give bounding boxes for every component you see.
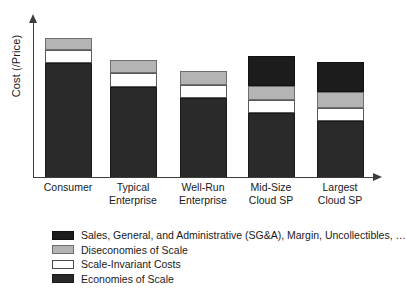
bar-segment-economies: [110, 87, 157, 177]
legend-item-economies[interactable]: Economies of Scale: [52, 272, 399, 287]
bar-segment-scale-invariant: [110, 73, 157, 87]
legend-swatch-economies-icon: [52, 274, 74, 283]
legend-label-scale-invariant: Scale-Invariant Costs: [81, 258, 181, 270]
bar-segment-economies: [180, 98, 227, 177]
bar-segment-economies: [45, 63, 92, 177]
bars-layer: [0, 0, 399, 177]
chart-legend: Sales, General, and Administrative (SG&A…: [52, 228, 399, 286]
legend-item-scale-invariant[interactable]: Scale-Invariant Costs: [52, 257, 399, 272]
bar-mid-size-cloud-sp[interactable]: [248, 56, 295, 177]
legend-item-diseconomies[interactable]: Diseconomies of Scale: [52, 243, 399, 258]
bar-well-run-enterprise[interactable]: [180, 71, 227, 177]
bar-typical-enterprise[interactable]: [110, 60, 157, 177]
bar-segment-diseconomies: [45, 38, 92, 50]
bar-segment-diseconomies: [180, 71, 227, 85]
bar-segment-scale-invariant: [317, 108, 364, 121]
bar-segment-scale-invariant: [45, 50, 92, 63]
bar-segment-diseconomies: [317, 92, 364, 108]
legend-label-economies: Economies of Scale: [81, 273, 174, 285]
bar-segment-scale-invariant: [180, 85, 227, 98]
bar-segment-scale-invariant: [248, 100, 295, 113]
bar-segment-economies: [248, 113, 295, 177]
bar-segment-sga: [317, 62, 364, 92]
x-tick-label-largest-cloud-sp: Largest Cloud SP: [297, 181, 383, 206]
bar-segment-diseconomies: [248, 86, 295, 100]
bar-consumer[interactable]: [45, 38, 92, 177]
legend-label-diseconomies: Diseconomies of Scale: [81, 244, 188, 256]
legend-swatch-diseconomies-icon: [52, 245, 74, 254]
bar-segment-sga: [248, 56, 295, 86]
legend-swatch-scale-invariant-icon: [52, 260, 74, 269]
plot-area: Cost (/Price): [0, 0, 399, 220]
bar-largest-cloud-sp[interactable]: [317, 62, 364, 177]
bar-segment-economies: [317, 121, 364, 177]
legend-item-sga[interactable]: Sales, General, and Administrative (SG&A…: [52, 228, 399, 243]
legend-swatch-sga-icon: [52, 231, 74, 240]
legend-label-sga: Sales, General, and Administrative (SG&A…: [81, 229, 406, 241]
bar-segment-diseconomies: [110, 60, 157, 73]
